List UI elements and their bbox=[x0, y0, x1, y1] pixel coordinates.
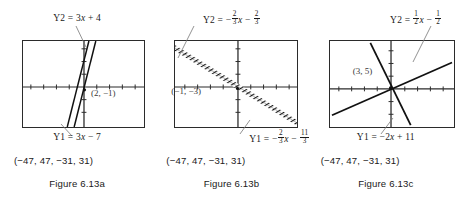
fraction-const-y2-b: 23 bbox=[254, 11, 260, 27]
equation-y1-tail-a: − 7 bbox=[85, 132, 101, 142]
fraction-coef-y1-b: 23 bbox=[278, 130, 284, 146]
calculator-screen-a bbox=[22, 40, 145, 128]
figure-panel-6-13b: Y2 = −23x − 23 bbox=[154, 0, 308, 204]
graph-c bbox=[330, 41, 454, 127]
window-setting-c: (−47, 47, −31, 31) bbox=[321, 155, 400, 166]
equation-label-y1-c: Y1 = −2x + 11 bbox=[309, 132, 463, 143]
fraction-coef-y2-c: 12 bbox=[413, 11, 419, 27]
equation-y2-name-c: Y2 = bbox=[390, 15, 413, 25]
graph-b bbox=[175, 41, 297, 127]
equation-y2-minus-c: − bbox=[424, 15, 435, 25]
equation-y1-tail-c: + 11 bbox=[395, 132, 415, 142]
equation-label-y2-a: Y2 = 3x + 4 bbox=[0, 13, 154, 24]
equation-y2-minus-b: − bbox=[242, 15, 253, 25]
equation-y1-name-b: Y1 = − bbox=[249, 134, 277, 144]
figure-caption-c: Figure 6.13c bbox=[309, 178, 463, 189]
fraction-numerator: 2 bbox=[254, 11, 260, 19]
window-setting-a: (−47, 47, −31, 31) bbox=[14, 155, 93, 166]
figure-caption-b: Figure 6.13b bbox=[154, 178, 308, 189]
calculator-screen-b bbox=[174, 40, 298, 128]
fraction-denominator: 3 bbox=[232, 18, 238, 27]
fraction-const-y2-c: 12 bbox=[435, 11, 441, 27]
fraction-denominator: 2 bbox=[435, 18, 441, 27]
calculator-screen-c bbox=[329, 40, 455, 128]
figure-panel-6-13c: Y2 = 12x − 12 bbox=[309, 0, 463, 204]
fraction-numerator: 1 bbox=[435, 11, 441, 19]
equation-y1-name-c: Y1 bbox=[357, 132, 369, 142]
equation-label-y2-b: Y2 = −23x − 23 bbox=[154, 12, 308, 28]
equation-y2-eq-a: = 3 bbox=[65, 13, 81, 23]
equation-label-y1-a: Y1 = 3x − 7 bbox=[0, 132, 154, 143]
equation-y1-minus-b: − bbox=[289, 134, 300, 144]
equation-y1-name-a: Y1 bbox=[53, 132, 65, 142]
figure-group: Y2 = 3x + 4 bbox=[0, 0, 463, 204]
window-setting-b: (−47, 47, −31, 31) bbox=[166, 155, 245, 166]
fraction-numerator: 1 bbox=[413, 11, 419, 19]
fraction-numerator: 2 bbox=[232, 11, 238, 19]
fraction-numerator: 2 bbox=[278, 130, 284, 138]
intersection-point-a bbox=[83, 88, 86, 91]
equation-label-y2-c: Y2 = 12x − 12 bbox=[309, 12, 463, 28]
fraction-denominator: 3 bbox=[254, 18, 260, 27]
point-label-a: (2, −1) bbox=[91, 88, 116, 98]
fraction-coef-y2-b: 23 bbox=[232, 11, 238, 27]
figure-panel-6-13a: Y2 = 3x + 4 bbox=[0, 0, 154, 204]
equation-y1-eq-c: = −2 bbox=[369, 132, 390, 142]
equation-y2-tail-a: + 4 bbox=[85, 13, 101, 23]
fraction-denominator: 3 bbox=[278, 137, 284, 146]
figure-caption-a: Figure 6.13a bbox=[0, 178, 154, 189]
intersection-point-c bbox=[389, 86, 392, 89]
equation-y1-eq-a: = 3 bbox=[65, 132, 81, 142]
intersection-point-b bbox=[236, 87, 239, 90]
point-label-b: (−1, −3) bbox=[171, 86, 201, 96]
equation-y2-name-b: Y2 = − bbox=[203, 15, 231, 25]
graph-a bbox=[23, 41, 144, 127]
point-label-c: (3, 5) bbox=[353, 66, 373, 76]
equation-y2-name-a: Y2 bbox=[53, 13, 65, 23]
fraction-denominator: 2 bbox=[413, 18, 419, 27]
